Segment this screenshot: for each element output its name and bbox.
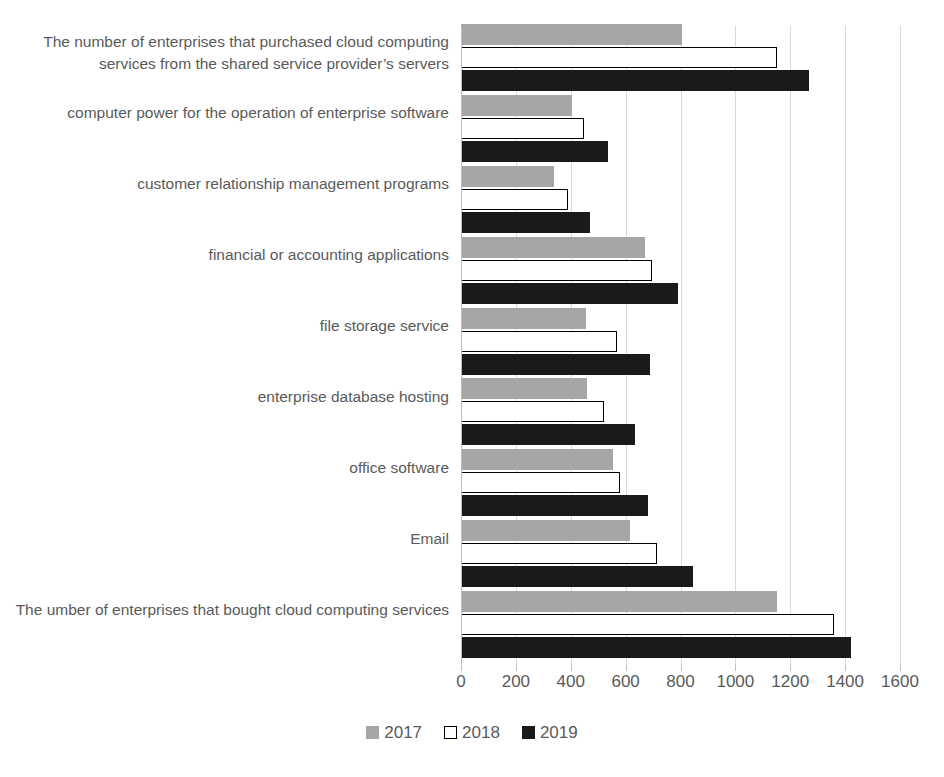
x-tick-label: 1600 — [881, 672, 919, 692]
bar-2018 — [461, 331, 617, 352]
bar-2018 — [461, 472, 620, 493]
legend-swatch-icon — [522, 726, 535, 739]
x-axis-tick-labels: 02004006008001000120014001600 — [461, 672, 900, 698]
legend-item-2019[interactable]: 2019 — [522, 724, 578, 741]
bar-group — [461, 378, 900, 445]
bar-2019 — [461, 70, 809, 91]
tickmark-600 — [626, 664, 627, 671]
category-label: office software — [0, 457, 452, 479]
category-label: computer power for the operation of ente… — [0, 102, 452, 124]
legend-item-2017[interactable]: 2017 — [366, 724, 422, 741]
bar-2017 — [461, 237, 645, 258]
bar-2019 — [461, 424, 635, 445]
tickmark-1600 — [900, 664, 901, 671]
x-axis-tickmarks — [461, 664, 900, 672]
value-axis-line — [461, 26, 462, 664]
category-label: financial or accounting applications — [0, 244, 452, 266]
bar-2017 — [461, 449, 613, 470]
bar-2018 — [461, 189, 568, 210]
bar-2017 — [461, 591, 777, 612]
bar-2017 — [461, 166, 554, 187]
bar-group — [461, 591, 900, 658]
bar-2018 — [461, 614, 834, 635]
bar-chart: The number of enterprises that purchased… — [0, 0, 944, 777]
tickmark-400 — [571, 664, 572, 671]
bar-group — [461, 237, 900, 304]
legend-item-2018[interactable]: 2018 — [444, 724, 500, 741]
bar-group — [461, 308, 900, 375]
bar-2019 — [461, 637, 851, 658]
x-tick-label: 0 — [456, 672, 465, 692]
gridline-1600 — [900, 26, 901, 664]
bar-2018 — [461, 401, 604, 422]
bar-2017 — [461, 378, 587, 399]
bar-2019 — [461, 283, 678, 304]
bar-2017 — [461, 308, 586, 329]
legend-swatch-icon — [444, 726, 457, 739]
legend-swatch-icon — [366, 726, 379, 739]
bar-group — [461, 166, 900, 233]
bar-2017 — [461, 520, 630, 541]
bar-group — [461, 24, 900, 91]
category-label: enterprise database hosting — [0, 386, 452, 408]
tickmark-1200 — [790, 664, 791, 671]
tickmark-0 — [461, 664, 462, 671]
category-label: customer relationship management program… — [0, 173, 452, 195]
bar-2019 — [461, 141, 608, 162]
plot-area — [461, 26, 900, 664]
bar-group — [461, 95, 900, 162]
bar-2019 — [461, 212, 590, 233]
x-tick-label: 600 — [611, 672, 639, 692]
bar-2019 — [461, 566, 693, 587]
bar-2018 — [461, 543, 657, 564]
x-tick-label: 400 — [557, 672, 585, 692]
bar-2017 — [461, 95, 572, 116]
x-tick-label: 200 — [502, 672, 530, 692]
x-tick-label: 1200 — [771, 672, 809, 692]
bar-2018 — [461, 260, 652, 281]
category-axis-labels: The number of enterprises that purchased… — [0, 26, 455, 664]
x-tick-label: 1400 — [826, 672, 864, 692]
bar-2019 — [461, 495, 648, 516]
bar-2017 — [461, 24, 682, 45]
category-label: Email — [0, 528, 452, 550]
category-label: file storage service — [0, 315, 452, 337]
tickmark-200 — [516, 664, 517, 671]
legend-label: 2019 — [540, 724, 578, 741]
tickmark-800 — [681, 664, 682, 671]
bar-2018 — [461, 47, 777, 68]
bar-group — [461, 520, 900, 587]
category-label: The number of enterprises that purchased… — [0, 31, 452, 75]
chart-legend: 201720182019 — [0, 724, 944, 741]
tickmark-1400 — [845, 664, 846, 671]
tickmark-1000 — [735, 664, 736, 671]
x-tick-label: 1000 — [716, 672, 754, 692]
bar-2018 — [461, 118, 584, 139]
category-label: The umber of enterprises that bought clo… — [0, 599, 452, 621]
legend-label: 2018 — [462, 724, 500, 741]
bar-2019 — [461, 354, 650, 375]
x-tick-label: 800 — [666, 672, 694, 692]
legend-label: 2017 — [384, 724, 422, 741]
bar-group — [461, 449, 900, 516]
